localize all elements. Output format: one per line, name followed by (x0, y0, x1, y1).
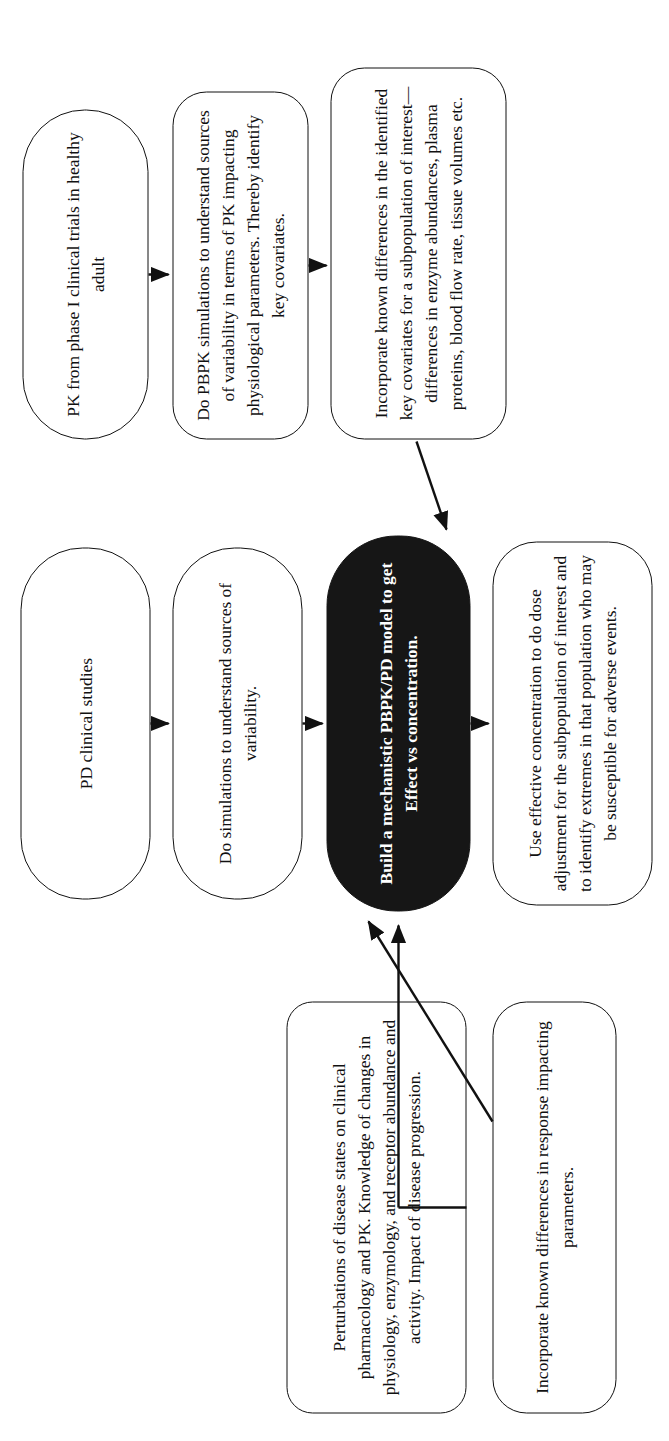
connector-layer (0, 0, 669, 1441)
edge-response-to-model (368, 921, 492, 1121)
flowchart-canvas: PK from phase I clinical trials in healt… (0, 0, 669, 1441)
edge-covariates-to-model (416, 441, 446, 529)
